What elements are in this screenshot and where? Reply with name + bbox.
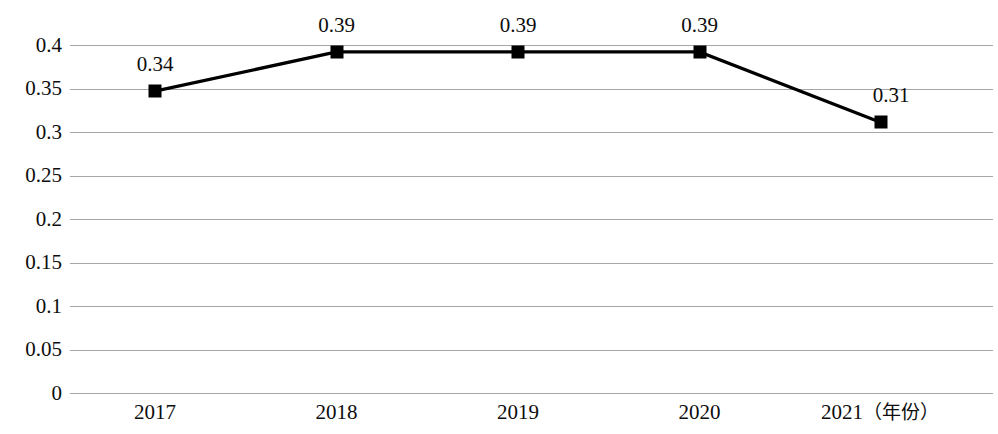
data-point-label: 0.34 (137, 53, 174, 75)
x-axis: 20172018201920202021（年份） (70, 400, 993, 434)
y-tick-label: 0.15 (0, 252, 62, 273)
data-point-marker (149, 85, 162, 98)
y-tick-label: 0.1 (0, 296, 62, 317)
x-tick-year: 2021 (821, 400, 863, 424)
y-tick-label: 0.25 (0, 165, 62, 186)
data-point-label: 0.39 (500, 14, 537, 36)
data-point-marker (330, 45, 343, 58)
x-axis-unit-label: （年份） (863, 401, 939, 423)
x-tick-label: 2017 (134, 400, 176, 424)
series-line (70, 45, 993, 393)
y-tick-label: 0.05 (0, 339, 62, 360)
x-tick-label: 2019 (497, 400, 539, 424)
x-tick-label: 2021（年份） (821, 400, 939, 424)
data-point-label: 0.39 (681, 14, 718, 36)
data-point-marker (512, 45, 525, 58)
line-chart: 0.4 0.35 0.3 0.25 0.2 0.15 0.1 0.05 0 0.… (0, 0, 998, 434)
x-tick-year: 2020 (679, 400, 721, 424)
y-tick-label: 0.2 (0, 209, 62, 230)
data-point-label: 0.39 (318, 14, 355, 36)
x-tick-year: 2019 (497, 400, 539, 424)
gridline (70, 393, 993, 394)
x-tick-year: 2017 (134, 400, 176, 424)
y-axis: 0.4 0.35 0.3 0.25 0.2 0.15 0.1 0.05 0 (0, 0, 62, 434)
x-tick-year: 2018 (316, 400, 358, 424)
y-tick-label: 0.4 (0, 35, 62, 56)
data-point-label: 0.31 (873, 84, 910, 106)
data-point-marker (693, 45, 706, 58)
x-tick-label: 2020 (679, 400, 721, 424)
y-tick-label: 0.3 (0, 122, 62, 143)
x-tick-label: 2018 (316, 400, 358, 424)
y-tick-label: 0 (0, 383, 62, 404)
data-point-marker (875, 116, 888, 129)
y-tick-label: 0.35 (0, 78, 62, 99)
plot-area: 0.340.390.390.390.31 (70, 45, 993, 393)
